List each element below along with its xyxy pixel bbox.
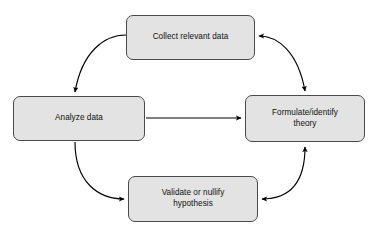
- node-collect-relevant-data-label: Collect relevant data: [149, 32, 233, 43]
- node-formulate-identify-theory-label: Formulate/identify theory: [268, 108, 342, 130]
- node-collect-relevant-data[interactable]: Collect relevant data: [126, 15, 255, 60]
- connector-analyze-to-validate: [75, 142, 124, 199]
- node-validate-or-nullify-hypothesis[interactable]: Validate or nullify hypothesis: [128, 176, 258, 222]
- node-formulate-identify-theory[interactable]: Formulate/identify theory: [245, 95, 365, 142]
- node-analyze-data-label: Analyze data: [51, 113, 107, 124]
- connector-formulate-collect: [259, 36, 305, 91]
- connector-validate-formulate: [262, 147, 305, 199]
- diagram-canvas: Collect relevant data Analyze data Formu…: [0, 0, 379, 235]
- connector-collect-to-analyze: [75, 35, 126, 92]
- node-validate-or-nullify-hypothesis-label: Validate or nullify hypothesis: [158, 188, 229, 210]
- node-analyze-data[interactable]: Analyze data: [13, 96, 145, 141]
